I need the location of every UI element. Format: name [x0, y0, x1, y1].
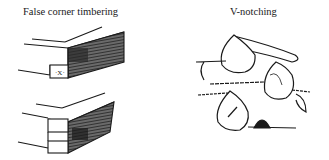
- false-corner-timbering-bottom-drawing: [18, 93, 114, 153]
- svg-text:·X·: ·X·: [55, 69, 65, 77]
- v-notching-drawing: [196, 35, 310, 130]
- false-corner-timbering-top-drawing: ·X·: [18, 27, 124, 78]
- illustrations: ·X·: [0, 0, 329, 160]
